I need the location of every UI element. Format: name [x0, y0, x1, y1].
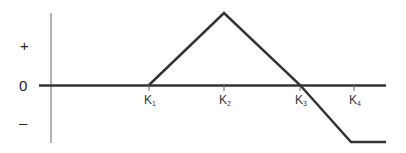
zero-label: 0: [19, 78, 27, 93]
strike-k1: K1: [144, 94, 156, 107]
strike-k3: K3: [295, 94, 307, 107]
minus-label: –: [19, 115, 27, 130]
strike-k4: K4: [349, 94, 361, 107]
strike-k2: K2: [219, 94, 231, 107]
payoff-line: [149, 13, 386, 142]
payoff-chart: [0, 0, 406, 153]
plus-label: +: [20, 38, 29, 53]
